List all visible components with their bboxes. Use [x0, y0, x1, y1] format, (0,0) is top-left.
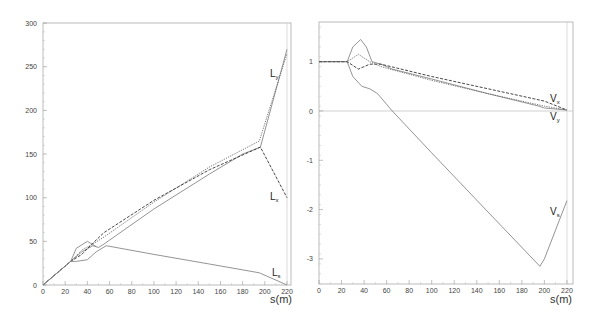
vy-label: Vy — [550, 111, 560, 123]
vx-label: Vx — [550, 93, 560, 105]
y-tick-label: 1 — [309, 58, 313, 65]
x-tick-label: 180 — [516, 287, 528, 294]
left-xlabel: s(m) — [270, 293, 292, 305]
y-tick-label: 150 — [25, 151, 37, 158]
right-plot: 020406080100120140160180200220-3-2-101 s… — [307, 22, 573, 305]
ly-label: Ly — [270, 68, 279, 80]
curve-vs-lower-solid- — [347, 62, 567, 267]
y-tick-label: -2 — [307, 206, 313, 213]
x-tick-label: 20 — [61, 288, 69, 295]
left-plot: 0204060801001201401601802002200501001502… — [25, 20, 293, 305]
y-tick-label: 100 — [25, 194, 37, 201]
curve-ly-solid- — [43, 49, 287, 285]
x-tick-label: 140 — [471, 287, 483, 294]
right-plot-frame — [319, 22, 573, 284]
y-tick-label: 200 — [25, 107, 37, 114]
x-tick-label: 80 — [405, 287, 413, 294]
x-tick-label: 60 — [383, 287, 391, 294]
curve-ls-solid- — [43, 246, 287, 285]
x-tick-label: 160 — [493, 287, 505, 294]
x-tick-label: 140 — [192, 288, 204, 295]
curve-vs-solid- — [319, 40, 567, 111]
curve-vx-dashed- — [319, 62, 567, 110]
x-tick-label: 0 — [317, 287, 321, 294]
vs-label: Vs — [550, 206, 560, 218]
ls-label: Ls — [272, 267, 281, 279]
x-tick-label: 80 — [128, 288, 136, 295]
x-tick-label: 120 — [170, 288, 182, 295]
right-xlabel: s(m) — [550, 293, 572, 305]
x-tick-label: 100 — [148, 288, 160, 295]
x-tick-label: 40 — [360, 287, 368, 294]
y-tick-label: 0 — [33, 282, 37, 289]
y-tick-label: 300 — [25, 20, 37, 27]
lx-label: Lx — [270, 191, 279, 203]
curve-lx-dashed- — [43, 147, 287, 285]
right-curves — [319, 40, 567, 267]
x-tick-label: 180 — [237, 288, 249, 295]
x-tick-label: 60 — [106, 288, 114, 295]
x-tick-label: 120 — [448, 287, 460, 294]
y-tick-label: 0 — [309, 108, 313, 115]
right-axis-ticks: 020406080100120140160180200220-3-2-101 — [307, 27, 573, 294]
left-axis-ticks: 0204060801001201401601802002200501001502… — [25, 20, 293, 295]
y-tick-label: -3 — [307, 255, 313, 262]
y-tick-label: -1 — [307, 157, 313, 164]
x-tick-label: 200 — [259, 288, 271, 295]
figure: 0204060801001201401601802002200501001502… — [0, 0, 593, 322]
curve-ly-dotted- — [43, 54, 287, 285]
left-curves — [43, 49, 287, 285]
x-tick-label: 40 — [83, 288, 91, 295]
y-tick-label: 250 — [25, 63, 37, 70]
y-tick-label: 50 — [29, 238, 37, 245]
x-tick-label: 100 — [426, 287, 438, 294]
x-tick-label: 160 — [215, 288, 227, 295]
x-tick-label: 200 — [539, 287, 551, 294]
x-tick-label: 20 — [338, 287, 346, 294]
x-tick-label: 0 — [41, 288, 45, 295]
